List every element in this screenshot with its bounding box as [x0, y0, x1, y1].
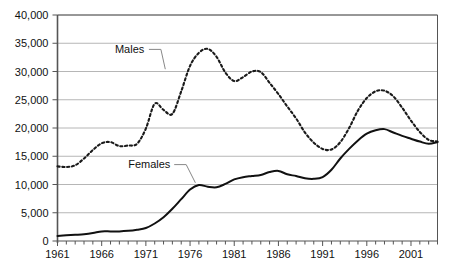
x-axis-tick-label: 1996 [355, 248, 379, 260]
y-axis-tick-label: 40,000 [15, 9, 49, 21]
y-axis-tick-label: 35,000 [15, 37, 49, 49]
x-axis-tick-label: 1961 [45, 248, 69, 260]
y-axis-tick-label: 5,000 [21, 207, 49, 219]
x-axis-tick-label: 1971 [134, 248, 158, 260]
x-axis-tick-label: 1981 [222, 248, 246, 260]
x-axis-tick-label: 2001 [399, 248, 423, 260]
chart-background [0, 0, 457, 273]
x-axis-tick-label: 1976 [178, 248, 202, 260]
x-axis-tick-label: 1991 [310, 248, 334, 260]
chart-container: 05,00010,00015,00020,00025,00030,00035,0… [0, 0, 457, 273]
series-label-males: Males [115, 43, 145, 55]
x-axis-tick-labels: 196119661971197619811986199119962001 [45, 248, 423, 260]
y-axis-tick-label: 15,000 [15, 150, 49, 162]
y-axis-tick-label: 30,000 [15, 66, 49, 78]
line-chart: 05,00010,00015,00020,00025,00030,00035,0… [0, 0, 457, 273]
x-axis-tick-label: 1966 [89, 248, 113, 260]
x-axis-tick-label: 1986 [266, 248, 290, 260]
series-label-females: Females [128, 158, 171, 170]
y-axis-tick-label: 0 [42, 235, 48, 247]
y-axis-tick-label: 25,000 [15, 94, 49, 106]
y-axis-tick-label: 10,000 [15, 179, 49, 191]
y-axis-tick-label: 20,000 [15, 122, 49, 134]
